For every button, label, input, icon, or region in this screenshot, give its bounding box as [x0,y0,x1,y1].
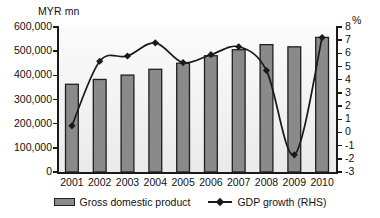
left-tick-label-100000: 100,000 [4,141,52,153]
legend-label-gdp-growth: GDP growth (RHS) [237,196,326,208]
legend-item-gdp-growth: GDP growth (RHS) [208,196,326,208]
legend-item-gdp: Gross domestic product [54,196,191,208]
plot-area [58,27,336,172]
right-axis-line [336,26,338,173]
right-tick-5 [337,66,342,67]
left-tick-100000 [53,147,58,148]
bar-2003 [121,75,134,172]
x-tick-label-2010: 2010 [302,176,342,188]
left-tick-400000 [53,75,58,76]
left-tick-label-600000: 600,000 [4,20,52,32]
left-tick-300000 [53,99,58,100]
chart-legend: Gross domestic product GDP growth (RHS) [0,196,380,208]
left-tick-600000 [53,26,58,27]
bar-swatch-icon [54,198,75,206]
right-tick-label-8: 8 [345,20,351,32]
right-tick-8 [337,26,342,27]
data-point-2003 [124,52,131,59]
line-series-group [68,34,325,159]
bottom-axis-line [57,172,338,174]
gdp-growth-line [72,38,322,156]
left-tick-label-200000: 200,000 [4,117,52,129]
right-tick-2 [337,105,342,106]
right-axis-unit-label: % [352,14,361,26]
bar-2004 [149,69,162,172]
right-tick-label--1: -1 [345,139,354,151]
line-diamond-marker-icon [208,198,232,206]
left-tick-200000 [53,123,58,124]
left-tick-label-0: 0 [4,165,52,177]
data-point-2004 [152,39,159,46]
right-tick-7 [337,39,342,40]
left-tick-label-400000: 400,000 [4,68,52,80]
bar-2005 [177,63,190,172]
left-tick-0 [53,171,58,172]
right-tick-0 [337,132,342,133]
left-tick-500000 [53,50,58,51]
right-tick-label-4: 4 [345,73,351,85]
right-tick-1 [337,119,342,120]
left-tick-label-500000: 500,000 [4,44,52,56]
right-tick-3 [337,92,342,93]
right-tick--1 [337,145,342,146]
right-tick--3 [337,171,342,172]
bar-2006 [205,56,218,172]
right-tick-label--2: -2 [345,152,354,164]
right-tick-label--3: -3 [345,165,354,177]
right-tick-label-6: 6 [345,46,351,58]
legend-label-gdp: Gross domestic product [80,196,191,208]
right-tick-4 [337,79,342,80]
right-tick-label-1: 1 [345,112,351,124]
right-tick-label-7: 7 [345,33,351,45]
plot-svg [58,27,336,172]
right-tick--2 [337,158,342,159]
right-tick-label-2: 2 [345,99,351,111]
bar-2007 [232,50,245,172]
gdp-chart: MYR mn % 0100,000200,000300,000400,00050… [0,0,380,218]
bar-2002 [93,79,106,172]
right-tick-label-0: 0 [345,125,351,137]
left-tick-label-300000: 300,000 [4,93,52,105]
left-axis-unit-label: MYR mn [38,5,79,17]
right-tick-label-5: 5 [345,60,351,72]
right-tick-6 [337,53,342,54]
right-tick-label-3: 3 [345,86,351,98]
